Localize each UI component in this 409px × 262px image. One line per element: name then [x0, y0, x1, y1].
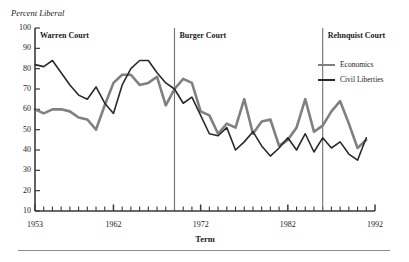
- legend-item-economics: Economics: [318, 60, 384, 69]
- y-tick-label: 100: [9, 24, 31, 32]
- era-label-rehnquist-court: Rehnquist Court: [328, 31, 386, 40]
- plot-area: [35, 28, 375, 211]
- era-label-warren-court: Warren Court: [40, 31, 89, 40]
- legend-item-civil-liberties: Civil Liberties: [318, 75, 384, 84]
- y-tick-label: 90: [9, 44, 31, 52]
- x-axis-title: Term: [195, 234, 215, 244]
- x-tick-label: 1982: [280, 221, 296, 229]
- x-tick-label: 1953: [27, 221, 43, 229]
- running-head: [300, 0, 409, 7]
- figure-page: Percent Liberal 100908070605040302010 19…: [0, 0, 409, 262]
- y-tick-label: 20: [9, 187, 31, 195]
- chart-legend: EconomicsCivil Liberties: [318, 60, 384, 90]
- legend-label: Economics: [340, 60, 373, 69]
- era-label-burger-court: Burger Court: [179, 31, 226, 40]
- y-tick-label: 70: [9, 85, 31, 93]
- series-lines: [35, 61, 366, 161]
- legend-label: Civil Liberties: [340, 75, 384, 84]
- y-tick-label: 50: [9, 126, 31, 134]
- legend-swatch-icon: [318, 64, 335, 66]
- x-tick-label: 1962: [105, 221, 121, 229]
- y-tick-label: 60: [9, 105, 31, 113]
- y-tick-label: 30: [9, 166, 31, 174]
- x-tick-label: 1992: [367, 221, 383, 229]
- y-tick-label: 10: [9, 207, 31, 215]
- y-axis-label: Percent Liberal: [11, 8, 64, 18]
- footer-rule: [18, 250, 390, 251]
- y-tick-label: 40: [9, 146, 31, 154]
- y-tick-label: 80: [9, 65, 31, 73]
- x-minor-ticks: [35, 205, 375, 212]
- legend-swatch-icon: [318, 79, 335, 81]
- line-chart-svg: [35, 28, 375, 211]
- x-tick-label: 1972: [193, 221, 209, 229]
